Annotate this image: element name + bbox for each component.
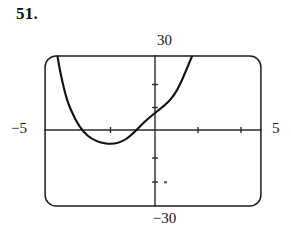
x-max-label: 5	[272, 121, 280, 136]
problem-number: 51.	[16, 5, 38, 22]
figure-container: 51.	[0, 0, 291, 239]
graph-window	[44, 55, 262, 207]
y-min-label: −30	[19, 211, 291, 226]
window-frame	[45, 56, 261, 206]
print-artifact	[164, 181, 167, 183]
graph-plot-area	[44, 55, 262, 207]
x-min-label: −5	[11, 121, 27, 136]
y-max-label: 30	[19, 33, 291, 48]
